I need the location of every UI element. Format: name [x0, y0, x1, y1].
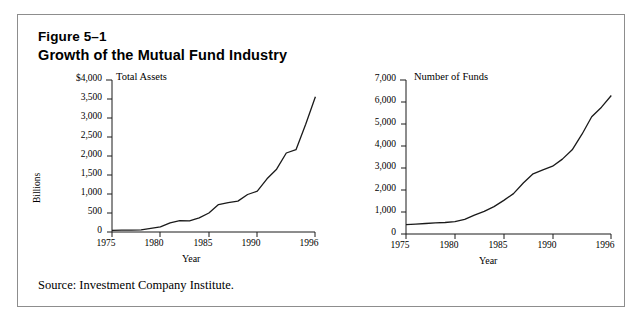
x-tick-label-right-1980: 1980	[433, 240, 465, 250]
figure-number: Figure 5–1	[38, 29, 287, 45]
x-tick-label-left-1996: 1996	[293, 238, 325, 248]
source-note: Source: Investment Company Institute.	[38, 278, 234, 293]
plot-area-total-assets	[106, 79, 320, 245]
y-tick-label-left-3500: 3,500	[48, 92, 102, 102]
x-tick-label-left-1990: 1990	[235, 238, 267, 248]
y-tick-label-right-7000: 7,000	[342, 73, 396, 83]
figure-frame: Figure 5–1 Growth of the Mutual Fund Ind…	[17, 14, 625, 307]
y-tick-label-right-6000: 6,000	[342, 95, 396, 105]
y-tick-label-right-1000: 1,000	[342, 205, 396, 215]
y-tick-label-right-5000: 5,000	[342, 117, 396, 127]
y-axis-title-left: Billions	[32, 173, 42, 203]
y-tick-label-left-2000: 2,000	[48, 149, 102, 159]
figure-title: Growth of the Mutual Fund Industry	[38, 46, 287, 64]
x-tick-label-right-1985: 1985	[482, 240, 514, 250]
x-tick-label-right-1996: 1996	[589, 240, 621, 250]
y-tick-label-left-1500: 1,500	[48, 168, 102, 178]
x-tick-label-left-1980: 1980	[138, 238, 170, 248]
y-tick-label-right-4000: 4,000	[342, 139, 396, 149]
x-tick-label-right-1990: 1990	[531, 240, 563, 250]
x-tick-label-left-1975: 1975	[90, 238, 122, 248]
chart-panel-total-assets: Total Assets Billions $4,000 3,500 3,000…	[30, 71, 330, 267]
x-tick-label-right-1975: 1975	[384, 240, 416, 250]
y-tick-label-right-0: 0	[342, 227, 396, 237]
figure-title-block: Figure 5–1 Growth of the Mutual Fund Ind…	[38, 29, 287, 64]
plot-area-number-of-funds	[400, 79, 616, 245]
y-tick-label-right-3000: 3,000	[342, 161, 396, 171]
y-tick-label-left-0: 0	[48, 225, 102, 235]
data-series-number-of-funds	[406, 96, 611, 225]
x-axis-title-left: Year	[182, 253, 200, 264]
y-tick-label-left-1000: 1,000	[48, 187, 102, 197]
x-tick-label-left-1985: 1985	[187, 238, 219, 248]
y-tick-label-left-500: 500	[48, 206, 102, 216]
y-tick-label-right-2000: 2,000	[342, 183, 396, 193]
y-tick-label-left-2500: 2,500	[48, 130, 102, 140]
data-series-total-assets	[112, 97, 315, 231]
y-tick-label-left-3000: 3,000	[48, 111, 102, 121]
chart-panel-number-of-funds: Number of Funds 7,000 6,000 5,000 4,000 …	[336, 71, 624, 267]
x-axis-title-right: Year	[479, 255, 497, 266]
y-tick-label-left-4000: $4,000	[48, 73, 102, 83]
